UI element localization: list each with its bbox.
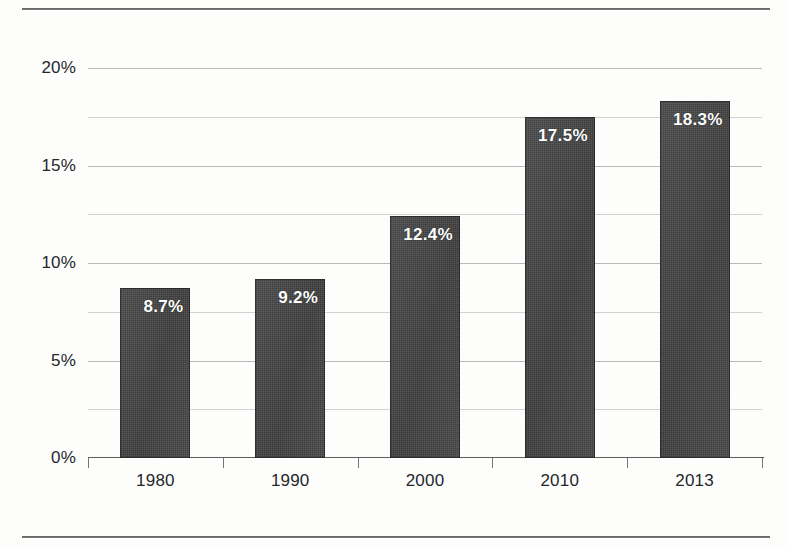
x-axis-category-label: 1990 — [223, 472, 358, 491]
y-axis-tick-label: 0% — [10, 449, 76, 466]
bar-value-label: 9.2% — [278, 288, 318, 308]
y-axis-tick-label: 10% — [10, 254, 76, 271]
x-axis-category-labels: 19801990200020102013 — [88, 472, 762, 502]
y-axis-tick-label: 15% — [10, 157, 76, 174]
x-axis-category-label: 2000 — [358, 472, 493, 491]
x-axis-tick — [492, 458, 493, 468]
x-axis-category-label: 2010 — [492, 472, 627, 491]
top-divider-rule — [22, 8, 770, 10]
bar-value-label: 18.3% — [673, 110, 723, 130]
bar-series: 8.7%9.2%12.4%17.5%18.3% — [88, 68, 762, 458]
bar: 8.7% — [120, 288, 190, 458]
x-axis-tick — [88, 458, 89, 468]
bar: 17.5% — [525, 117, 595, 458]
bar-value-label: 12.4% — [403, 225, 453, 245]
bar-chart-figure: 0%5%10%15%20% 8.7%9.2%12.4%17.5%18.3% 19… — [0, 0, 789, 547]
x-axis-category-label: 2013 — [627, 472, 762, 491]
bar: 12.4% — [390, 216, 460, 458]
y-axis-tick-labels: 0%5%10%15%20% — [0, 0, 76, 547]
x-axis-tick — [762, 458, 763, 468]
y-axis-tick-label: 20% — [10, 59, 76, 76]
bar-value-label: 8.7% — [143, 297, 183, 317]
y-axis-tick-label: 5% — [10, 352, 76, 369]
x-axis-tick — [223, 458, 224, 468]
bar-value-label: 17.5% — [538, 126, 588, 146]
bar: 18.3% — [660, 101, 730, 458]
x-axis-tick — [358, 458, 359, 468]
bar: 9.2% — [255, 279, 325, 458]
bottom-divider-rule — [22, 536, 770, 538]
x-axis-tick — [627, 458, 628, 468]
x-axis-category-label: 1980 — [88, 472, 223, 491]
